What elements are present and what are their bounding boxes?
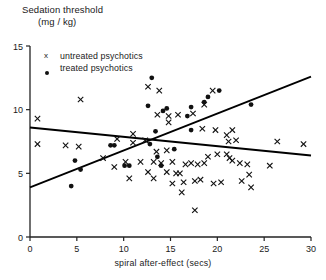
data-point-untreated — [63, 143, 68, 148]
data-point-untreated — [181, 180, 186, 185]
data-point-untreated — [35, 116, 40, 121]
x-axis-ticks: 051015202530 — [27, 237, 316, 254]
data-point-treated — [159, 163, 164, 168]
data-point-untreated — [155, 112, 160, 117]
data-point-treated — [217, 88, 222, 93]
data-point-untreated — [205, 154, 210, 159]
sedation-threshold-scatter-chart: Sedation threshold (mg / kg) x untreated… — [0, 0, 326, 280]
data-point-untreated — [248, 185, 253, 190]
x-tick-label: 30 — [306, 244, 316, 254]
data-point-treated — [122, 163, 127, 168]
data-point-treated — [153, 129, 158, 134]
data-point-untreated — [145, 169, 150, 174]
data-point-untreated — [239, 178, 244, 183]
data-point-untreated — [78, 97, 83, 102]
x-axis-label: spiral after-effect (secs) — [0, 258, 326, 268]
data-point-untreated — [224, 132, 229, 137]
x-tick-label: 20 — [212, 244, 222, 254]
data-point-untreated — [166, 113, 171, 118]
data-point-untreated — [213, 127, 218, 132]
y-axis-ticks: 051015 — [13, 42, 30, 243]
data-point-treated — [249, 102, 254, 107]
data-point-treated — [189, 105, 194, 110]
data-point-treated — [155, 154, 160, 159]
data-point-treated — [112, 143, 117, 148]
data-point-untreated — [202, 160, 207, 165]
data-point-untreated — [224, 152, 229, 157]
data-point-untreated — [267, 163, 272, 168]
x-tick-label: 0 — [27, 244, 32, 254]
data-point-untreated — [154, 149, 159, 154]
data-point-untreated — [190, 111, 195, 116]
data-point-untreated — [200, 126, 205, 131]
data-point-untreated — [192, 178, 197, 183]
data-point-untreated — [76, 144, 81, 149]
data-point-untreated — [230, 158, 235, 163]
x-tick-label: 15 — [165, 244, 175, 254]
data-point-untreated — [145, 84, 150, 89]
data-point-untreated — [151, 176, 156, 181]
data-point-treated — [164, 106, 169, 111]
y-tick-label: 10 — [13, 105, 23, 115]
x-tick-label: 25 — [259, 244, 269, 254]
data-point-untreated — [157, 88, 162, 93]
data-point-untreated — [170, 159, 175, 164]
data-point-untreated — [151, 159, 156, 164]
data-point-treated — [78, 167, 83, 172]
data-point-untreated — [175, 112, 180, 117]
data-point-untreated — [245, 162, 250, 167]
data-point-treated — [206, 95, 211, 100]
y-tick-label: 0 — [18, 233, 23, 243]
data-point-untreated — [275, 139, 280, 144]
data-point-untreated — [170, 181, 175, 186]
data-points — [35, 75, 306, 213]
data-point-untreated — [166, 120, 171, 125]
data-point-untreated — [230, 127, 235, 132]
data-point-untreated — [183, 162, 188, 167]
data-point-untreated — [210, 88, 215, 93]
plot-area: 051015202530 051015 — [0, 0, 326, 280]
data-point-treated — [146, 103, 151, 108]
data-point-treated — [127, 163, 132, 168]
data-point-untreated — [218, 180, 223, 185]
data-point-untreated — [112, 164, 117, 169]
data-point-untreated — [188, 160, 193, 165]
data-point-treated — [202, 100, 207, 105]
y-tick-label: 15 — [13, 42, 23, 52]
data-point-untreated — [195, 162, 200, 167]
data-point-untreated — [130, 131, 135, 136]
y-tick-label: 5 — [18, 169, 23, 179]
data-point-untreated — [164, 169, 169, 174]
data-point-treated — [172, 147, 177, 152]
data-point-untreated — [164, 148, 169, 153]
data-point-untreated — [192, 208, 197, 213]
data-point-untreated — [127, 176, 132, 181]
x-tick-label: 10 — [119, 244, 129, 254]
regression-lines — [30, 77, 311, 188]
data-point-untreated — [198, 177, 203, 182]
data-point-treated — [189, 128, 194, 133]
data-point-untreated — [215, 152, 220, 157]
data-point-untreated — [130, 140, 135, 145]
data-point-untreated — [35, 141, 40, 146]
data-point-treated — [149, 75, 154, 80]
data-point-untreated — [233, 138, 238, 143]
data-point-untreated — [179, 190, 184, 195]
data-point-treated — [147, 142, 152, 147]
data-point-untreated — [246, 172, 251, 177]
data-point-untreated — [211, 181, 216, 186]
data-point-untreated — [138, 159, 143, 164]
data-point-treated — [69, 184, 74, 189]
data-point-untreated — [226, 139, 231, 144]
data-point-treated — [73, 158, 78, 163]
data-point-untreated — [301, 141, 306, 146]
data-point-treated — [185, 114, 190, 119]
data-point-untreated — [173, 171, 178, 176]
x-tick-label: 5 — [74, 244, 79, 254]
data-point-untreated — [237, 160, 242, 165]
